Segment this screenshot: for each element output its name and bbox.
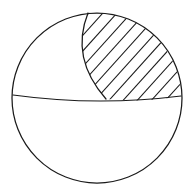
sphere-diagram <box>0 0 193 196</box>
figure-root <box>0 0 193 196</box>
